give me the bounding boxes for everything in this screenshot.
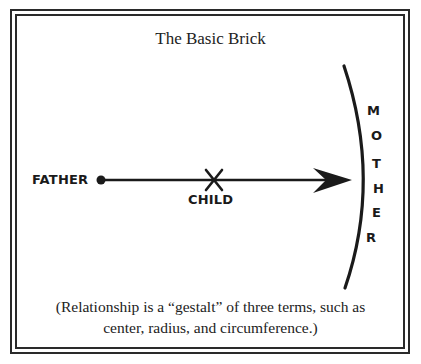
- caption-line-1: (Relationship is a “gestalt” of three te…: [0, 296, 421, 317]
- mother-letter-t: T: [372, 156, 381, 171]
- mother-letter-h: H: [373, 181, 384, 196]
- child-label: CHILD: [188, 192, 233, 207]
- caption-line-2: center, radius, and circumference.): [0, 317, 421, 338]
- mother-letter-r: R: [366, 230, 376, 245]
- caption: (Relationship is a “gestalt” of three te…: [0, 296, 421, 338]
- mother-letter-m: M: [367, 103, 380, 118]
- father-label: FATHER: [32, 172, 88, 187]
- mother-letter-e: E: [372, 205, 381, 220]
- circumference-arc: [344, 66, 363, 288]
- father-dot-icon: [97, 176, 106, 185]
- mother-letter-o: O: [371, 128, 382, 143]
